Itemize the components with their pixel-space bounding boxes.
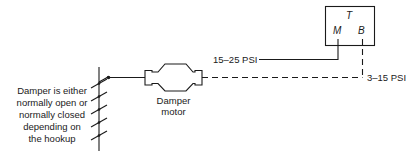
main-pressure-label: 15–25 PSI	[213, 54, 257, 65]
main-air-line: 15–25 PSI	[213, 39, 338, 65]
motor-label-line2: motor	[161, 106, 185, 117]
blade-pivot	[98, 134, 101, 137]
damper-note-line: Damper is either	[17, 85, 87, 96]
thermostat-label: T	[346, 10, 353, 21]
damper-note-line: the hookup	[28, 133, 75, 144]
blade-pivot	[98, 121, 101, 124]
damper-note-line: normally open or	[17, 97, 88, 108]
main-line-path	[259, 39, 338, 60]
blade-pivot	[98, 82, 101, 85]
port-branch-label: B	[358, 25, 365, 36]
damper	[91, 67, 107, 151]
damper-motor: Damper motor	[145, 64, 202, 117]
motor-label-line1: Damper	[157, 95, 191, 106]
branch-pressure-label: 3–15 PSI	[367, 72, 406, 83]
damper-note-line: normally closed	[19, 109, 85, 120]
damper-note-line: depending on	[23, 121, 81, 132]
thermostat: T M B	[326, 7, 375, 46]
damper-note: Damper is either normally open or normal…	[17, 85, 88, 144]
damper-linkage	[99, 76, 145, 82]
damper-motor-shape	[145, 64, 202, 91]
blade-pivot	[98, 95, 101, 98]
pneumatic-damper-diagram: T M B 15–25 PSI 3–15 PSI Damper motor	[0, 0, 419, 158]
port-main-label: M	[333, 25, 342, 36]
blade-pivot	[98, 108, 101, 111]
